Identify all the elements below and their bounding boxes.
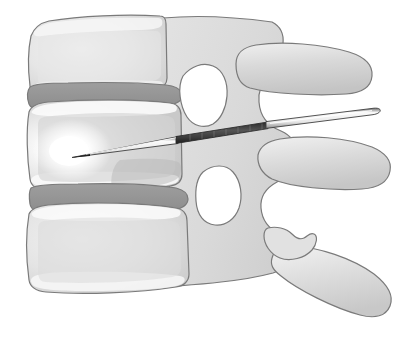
neural-foramen-upper bbox=[180, 64, 227, 126]
spine-diagram-svg bbox=[0, 0, 398, 342]
neural-foramen-lower bbox=[196, 166, 241, 225]
vertebral-body-lower bbox=[27, 203, 189, 294]
cancellous-bone-upper bbox=[38, 31, 161, 86]
cement-highlight bbox=[32, 119, 112, 181]
cancellous-bone-lower bbox=[38, 218, 181, 283]
spine-illustration: Lateral lumbar spine with transpedicular… bbox=[0, 0, 398, 342]
